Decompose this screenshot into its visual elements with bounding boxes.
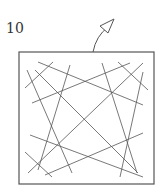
crossing-lines bbox=[25, 62, 148, 177]
mesh-figure bbox=[0, 0, 162, 195]
mesh-line bbox=[45, 133, 143, 175]
mesh-line bbox=[38, 62, 143, 105]
mesh-line bbox=[30, 135, 143, 177]
mesh-line bbox=[27, 70, 72, 173]
mesh-line bbox=[120, 72, 143, 177]
mesh-line bbox=[32, 63, 130, 103]
mesh-line bbox=[102, 63, 137, 173]
mesh-line bbox=[118, 62, 148, 90]
mesh-line bbox=[25, 152, 52, 177]
mesh-line bbox=[28, 63, 143, 173]
arrow-head-icon bbox=[100, 19, 114, 33]
mesh-line bbox=[38, 65, 70, 170]
